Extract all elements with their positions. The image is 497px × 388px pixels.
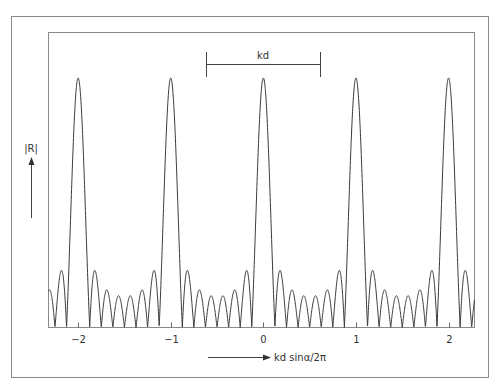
right-arrow-icon	[263, 355, 271, 361]
diffraction-figure: −2−1012 kd |R| kd sinα/2π	[0, 0, 497, 388]
x-tick-label: 2	[446, 334, 452, 345]
x-tick-label: −1	[164, 334, 179, 345]
x-tick-label: 0	[260, 334, 266, 345]
outer-frame	[12, 17, 489, 378]
x-tick-label: −2	[71, 334, 86, 345]
plot-frame	[49, 33, 475, 328]
period-bracket: kd	[206, 50, 321, 77]
x-axis-ticks	[79, 323, 450, 328]
x-tick-label: 1	[353, 334, 359, 345]
period-label: kd	[257, 50, 269, 61]
intensity-curve	[49, 78, 475, 328]
x-axis-tick-labels: −2−1012	[71, 334, 453, 345]
up-arrow-icon	[29, 157, 35, 165]
x-axis-label-group: kd sinα/2π	[208, 352, 326, 363]
y-axis-label-group: |R|	[24, 143, 38, 218]
y-axis-label: |R|	[24, 143, 38, 155]
x-axis-label: kd sinα/2π	[274, 352, 326, 363]
